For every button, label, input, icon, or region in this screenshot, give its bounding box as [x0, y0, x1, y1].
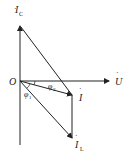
- phasor-diagram: I · C O U · I · I · L φ 2 φ 1: [0, 0, 132, 159]
- svg-text:·: ·: [79, 84, 82, 93]
- phi1-arc: [27, 84, 30, 88]
- il-sub: L: [80, 146, 84, 152]
- origin-label: O: [9, 76, 16, 87]
- il-label: I: [74, 139, 79, 150]
- ic-to-i-line: [21, 27, 72, 95]
- phi1-sub: 1: [29, 95, 32, 100]
- phi2-arc: [34, 81, 35, 85]
- svg-text:·: ·: [14, 4, 17, 13]
- u-label: U: [115, 76, 123, 87]
- svg-text:·: ·: [116, 68, 119, 77]
- i-label: I: [78, 92, 83, 103]
- phi2-sub: 2: [53, 87, 56, 92]
- ic-sub: C: [19, 11, 23, 17]
- svg-text:·: ·: [75, 131, 78, 140]
